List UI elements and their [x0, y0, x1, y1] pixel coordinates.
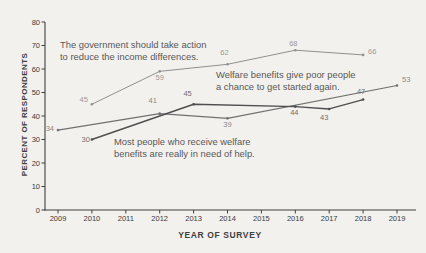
- annotation-line: benefits are really in need of help.: [114, 148, 255, 160]
- x-tick-label: 2013: [185, 214, 202, 223]
- point-value-label: 43: [320, 113, 328, 122]
- point-value-label: 45: [80, 95, 88, 104]
- x-tick-label: 2011: [118, 214, 134, 223]
- point-value-label: 68: [289, 39, 297, 48]
- plot-area: 0102030405060708020092010201120122013201…: [0, 0, 426, 253]
- annotation-line: Most people who receive welfare: [114, 136, 255, 148]
- x-tick-label: 2019: [389, 214, 406, 223]
- data-point: [158, 70, 161, 73]
- x-tick-label: 2015: [253, 214, 270, 223]
- y-tick-label: 30: [32, 135, 40, 144]
- annotation-line: The government should take action: [60, 39, 206, 51]
- data-point: [328, 108, 331, 111]
- y-tick-label: 60: [32, 65, 40, 74]
- annotation-line: to reduce the income differences.: [60, 51, 206, 63]
- y-tick-label: 10: [32, 182, 40, 191]
- data-point: [362, 54, 365, 57]
- point-value-label: 62: [220, 48, 228, 57]
- point-value-label: 44: [290, 108, 298, 117]
- y-tick-label: 70: [32, 41, 40, 50]
- data-point: [294, 49, 297, 52]
- data-point: [362, 98, 365, 101]
- point-value-label: 53: [402, 75, 410, 84]
- x-tick-label: 2016: [287, 214, 304, 223]
- point-value-label: 39: [223, 120, 231, 129]
- y-tick-label: 20: [32, 159, 40, 168]
- y-axis-title: PERCENT OF RESPONDENTS: [20, 50, 29, 180]
- point-value-label: 34: [46, 124, 54, 133]
- data-point: [57, 129, 60, 132]
- point-value-label: 41: [149, 96, 157, 105]
- y-tick-label: 80: [32, 18, 40, 27]
- point-value-label: 66: [368, 47, 376, 56]
- x-tick-label: 2009: [50, 214, 67, 223]
- data-point: [192, 103, 195, 106]
- y-tick-label: 0: [36, 206, 40, 215]
- x-tick-label: 2018: [355, 214, 372, 223]
- annotation-welfare-need: Most people who receive welfarebenefits …: [114, 136, 255, 160]
- point-value-label: 59: [156, 73, 164, 82]
- point-value-label: 47: [357, 87, 365, 96]
- data-point: [158, 112, 161, 115]
- annotation-line: a chance to get started again.: [216, 81, 356, 93]
- x-axis-title: YEAR OF SURVEY: [120, 230, 320, 240]
- x-tick-label: 2010: [84, 214, 101, 223]
- data-point: [91, 138, 94, 141]
- y-tick-label: 40: [32, 112, 40, 121]
- point-value-label: 45: [183, 89, 191, 98]
- data-point: [396, 84, 399, 87]
- y-tick-label: 50: [32, 88, 40, 97]
- data-point: [226, 63, 229, 66]
- x-tick-label: 2014: [219, 214, 236, 223]
- annotation-welfare-chance: Welfare benefits give poor peoplea chanc…: [216, 69, 356, 93]
- data-point: [226, 117, 229, 120]
- point-value-label: 30: [82, 135, 90, 144]
- annotation-line: Welfare benefits give poor people: [216, 69, 356, 81]
- line-chart-figure: 0102030405060708020092010201120122013201…: [0, 0, 426, 253]
- x-tick-label: 2012: [151, 214, 168, 223]
- annotation-government: The government should take actionto redu…: [60, 39, 206, 63]
- x-tick-label: 2017: [321, 214, 338, 223]
- data-point: [91, 103, 94, 106]
